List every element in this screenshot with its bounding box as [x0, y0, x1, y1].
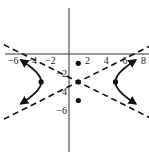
- point-marker: [76, 79, 81, 84]
- x-tick-label: −6: [8, 55, 19, 66]
- point-marker: [39, 79, 44, 84]
- hyperbola-branch: [21, 60, 41, 104]
- y-tick-label: −4: [56, 86, 67, 97]
- marked-points: [39, 61, 119, 103]
- x-tick-label: 8: [141, 55, 146, 66]
- x-tick-label: 4: [104, 55, 109, 66]
- x-tick-label: −4: [26, 55, 37, 66]
- x-tick-label: 2: [85, 55, 90, 66]
- hyperbola-plot: −6−4−22468−2−4−6: [0, 0, 149, 152]
- y-tick-label: −2: [56, 68, 67, 79]
- point-marker: [113, 79, 118, 84]
- x-tick-label: 6: [122, 55, 127, 66]
- point-marker: [76, 98, 81, 103]
- hyperbola-branch: [116, 60, 136, 104]
- y-tick-label: −6: [56, 105, 67, 116]
- x-tick-label: −2: [45, 55, 56, 66]
- point-marker: [76, 61, 81, 66]
